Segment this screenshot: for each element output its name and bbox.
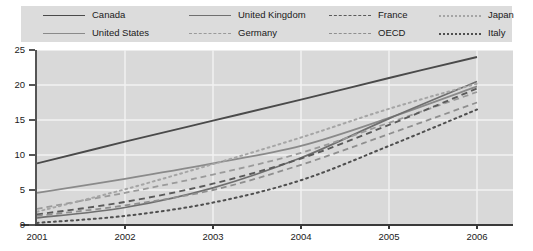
x-axis-tick-label: 2002 xyxy=(105,231,145,242)
y-axis-tick-label: 15 xyxy=(3,114,25,125)
y-axis-tick xyxy=(29,154,35,156)
x-axis-tick xyxy=(476,224,478,229)
legend-item-italy: Italy xyxy=(417,24,512,42)
legend-label: United States xyxy=(92,28,149,38)
legend-label: United Kingdom xyxy=(238,10,306,20)
x-axis-tick-label: 2004 xyxy=(281,231,321,242)
chart-figure: Canada United Kingdom France Japan Unite… xyxy=(0,0,533,251)
x-axis-tick-label: 2001 xyxy=(17,231,57,242)
y-axis-tick-label: 5 xyxy=(3,184,25,195)
x-axis-tick xyxy=(212,224,214,229)
plot-canvas xyxy=(37,50,513,225)
x-axis-tick xyxy=(300,224,302,229)
legend-label: Germany xyxy=(238,28,277,38)
legend-swatch-dotted-icon xyxy=(439,28,481,38)
legend-swatch-dashed-icon xyxy=(329,10,371,20)
y-axis-tick xyxy=(29,189,35,191)
legend-swatch-dashed-icon xyxy=(329,28,371,38)
legend-label: France xyxy=(378,10,408,20)
y-axis-tick xyxy=(29,84,35,86)
legend-item-oecd: OECD xyxy=(307,24,417,42)
y-axis-tick-label: 25 xyxy=(3,44,25,55)
legend-swatch-dotted-icon xyxy=(439,10,481,20)
legend-label: Japan xyxy=(488,10,514,20)
legend-item-canada: Canada xyxy=(21,6,167,24)
plot-area xyxy=(37,50,513,225)
y-axis-tick-label: 10 xyxy=(3,149,25,160)
legend-item-france: France xyxy=(307,6,417,24)
legend-swatch-dashed-icon xyxy=(189,28,231,38)
legend-swatch-solid-icon xyxy=(43,10,85,20)
y-axis-tick xyxy=(29,224,35,226)
legend-label: Italy xyxy=(488,28,505,38)
legend-swatch-solid-icon xyxy=(43,28,85,38)
y-axis-line xyxy=(35,50,37,225)
x-axis-tick xyxy=(124,224,126,229)
y-axis-tick-label: 20 xyxy=(3,79,25,90)
gridlines xyxy=(37,50,513,225)
legend-swatch-solid-icon xyxy=(189,10,231,20)
legend-item-united-states: United States xyxy=(21,24,167,42)
legend-item-germany: Germany xyxy=(167,24,307,42)
series-lines xyxy=(37,57,477,223)
legend-label: OECD xyxy=(378,28,405,38)
x-axis-line xyxy=(21,224,513,226)
x-axis-tick-label: 2003 xyxy=(193,231,233,242)
x-axis-tick xyxy=(388,224,390,229)
x-axis-tick-label: 2005 xyxy=(369,231,409,242)
y-axis-tick xyxy=(29,119,35,121)
chart-legend: Canada United Kingdom France Japan Unite… xyxy=(21,6,512,42)
x-axis-tick-label: 2006 xyxy=(457,231,497,242)
legend-label: Canada xyxy=(92,10,125,20)
legend-item-japan: Japan xyxy=(417,6,512,24)
y-axis-tick xyxy=(29,49,35,51)
legend-item-united-kingdom: United Kingdom xyxy=(167,6,307,24)
y-axis-tick-label: 0 xyxy=(3,219,25,230)
